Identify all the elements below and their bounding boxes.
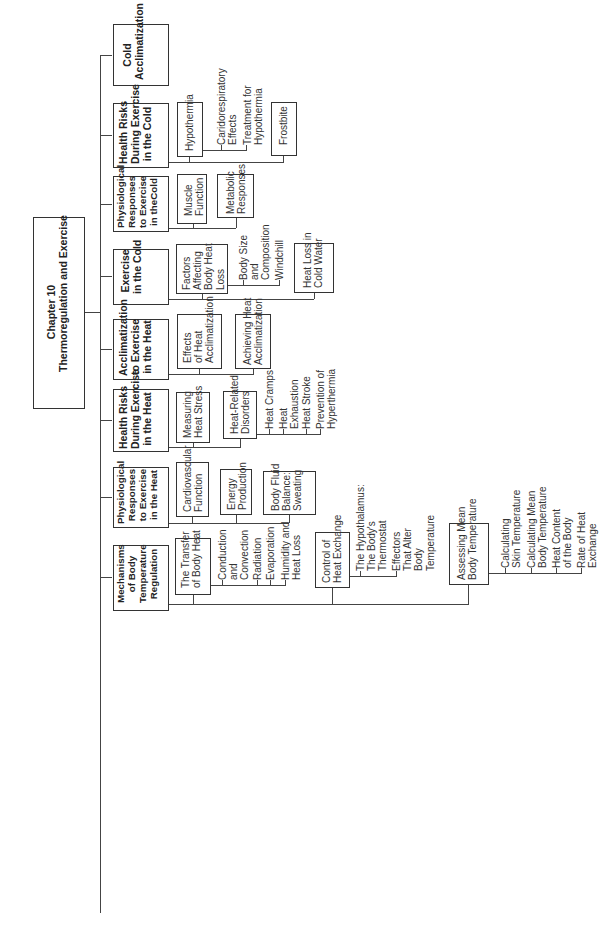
connector (228, 285, 280, 286)
subtopic-title: Frostbite (278, 105, 289, 145)
leaf-radiation: Radiation (252, 540, 263, 580)
connector (270, 580, 271, 585)
connector (236, 218, 237, 228)
connector (350, 576, 397, 577)
subtopic-title: Effects of Heat Acclimatization (182, 309, 216, 363)
leaf-treatment-hypothermia: Treatment for Hypothermia (242, 85, 264, 145)
subtopic-title: Assessing Mean Body Temperature (456, 518, 478, 580)
leaf-humidity-heat-loss: Humidity and Heat Loss (280, 522, 302, 580)
connector (169, 604, 469, 605)
connector (193, 443, 194, 447)
leaf-calc-mean-body-temp: Calculating Mean Body Temperature (526, 506, 548, 568)
connector (243, 280, 244, 285)
connector (285, 580, 286, 585)
connector (320, 429, 321, 434)
tick (100, 55, 112, 56)
connector (169, 447, 241, 448)
topic-title: Mechanisms of Body Temperature Regulatio… (116, 545, 160, 603)
connector (193, 595, 194, 604)
main-spine (100, 55, 101, 913)
tick (100, 577, 112, 578)
tick (100, 349, 112, 350)
topic-title: Exercise in the Cold (120, 248, 144, 294)
connector (396, 571, 397, 576)
leaf-hypothalamus: The Hypothalamus: The Body's Thermostat (355, 501, 389, 571)
subtopic-title: Muscle Function (183, 172, 205, 216)
connector (279, 280, 280, 285)
topic-title: Acclimatization to Exercise in the Heat (118, 318, 153, 376)
leaf-prevention-hyperthermia: Prevention of Hyperthermia (315, 369, 337, 429)
subtopic-title: Achieving Heat Acclimatization (242, 309, 264, 365)
leaf-heat-exhaustion: Heat Exhaustion (278, 379, 300, 429)
connector (360, 571, 361, 576)
connector (531, 568, 532, 573)
leaf-heat-cramps: Heat Cramps (264, 379, 275, 429)
subtopic-title: Cardiovascular Function (182, 458, 204, 512)
subtopic-title: Heat Loss in Cold Water (302, 242, 324, 288)
connector (240, 439, 241, 447)
leaf-cardiorespiratory: Caridorespiratory Effects (216, 85, 238, 145)
chapter-title: Chapter 10 Thermoregulation and Exercise (46, 252, 70, 372)
leaf-evaporation: Evaporation (265, 532, 276, 580)
leaf-calc-skin-temp: Calculating Skin Temperature (500, 506, 522, 568)
subtopic-title: The Transfer of Body Heat (180, 534, 202, 588)
connector (468, 585, 469, 604)
connector (332, 588, 333, 604)
connector (169, 228, 236, 229)
leaf-heat-stroke: Heat Stroke (301, 379, 312, 429)
subtopic-title: Factors Affecting Body Heat Loss (181, 242, 226, 290)
connector (189, 157, 190, 162)
connector (505, 568, 506, 573)
connector (306, 429, 307, 434)
connector (269, 429, 270, 434)
subtopic-title: Energy Production (226, 466, 248, 510)
tick (100, 420, 112, 421)
subtopic-title: Metabolic Responses (225, 170, 247, 214)
connector (203, 150, 247, 151)
connector (193, 224, 194, 228)
leaf-body-size: Body Size and Composition (238, 232, 272, 280)
leaf-windchill: Windchill (274, 240, 285, 280)
chapter-connector (85, 312, 100, 313)
tick (100, 497, 112, 498)
leaf-heat-content: Heat Content of the Body (551, 512, 573, 568)
subtopic-title: Heat-Related Disorders (229, 386, 251, 434)
connector (236, 515, 237, 523)
subtopic-title: Control of Heat Exchange (321, 529, 343, 583)
connector (221, 145, 222, 150)
tick (100, 135, 112, 136)
tick (100, 276, 112, 277)
connector (556, 568, 557, 573)
connector (169, 374, 254, 375)
leaf-conduction-convection: Conduction and Convection (217, 532, 251, 580)
connector (314, 293, 315, 299)
leaf-effectors: Effectors That Alter Body Temperature (391, 507, 436, 571)
connector (253, 369, 254, 374)
leaf-rate-heat-exchange: Rate of Heat Exchange (576, 512, 598, 568)
tick (100, 204, 112, 205)
connector (169, 162, 284, 163)
connector (246, 145, 247, 150)
topic-title: Physiological Responses to Exercise in t… (116, 466, 160, 524)
topic-title: Health Risks During Exercise in the Heat (118, 389, 153, 449)
subtopic-title: Body Fluid Balance: Sweating (270, 467, 304, 511)
connector (211, 585, 286, 586)
connector (257, 434, 321, 435)
connector (283, 429, 284, 434)
connector (283, 156, 284, 163)
subtopic-title: Measuring Heat Stress (182, 390, 204, 438)
connector (202, 294, 203, 299)
connector (489, 573, 582, 574)
topic-title: Cold Acclimatization (122, 30, 146, 80)
topic-title: Physiological Responses to Exercise in t… (116, 176, 160, 228)
connector (581, 568, 582, 573)
connector (192, 517, 193, 523)
connector (257, 580, 258, 585)
topic-title: Health Risks During Exercise in the Cold (118, 104, 153, 164)
connector (222, 580, 223, 585)
subtopic-title: Hypothermia (184, 101, 195, 151)
connector (199, 369, 200, 374)
connector (169, 523, 289, 524)
